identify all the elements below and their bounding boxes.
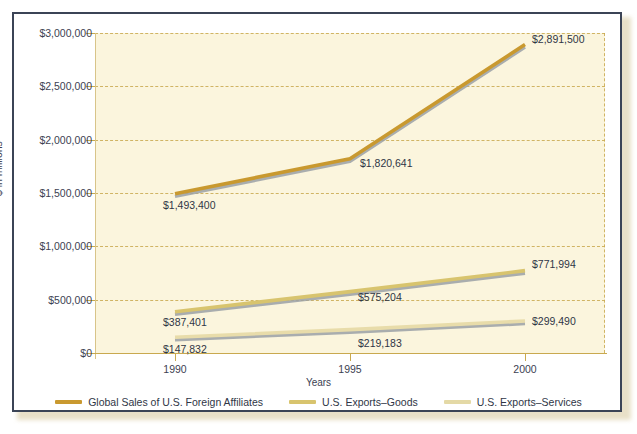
gridline-500000 [95, 300, 605, 301]
gridline-1000000 [95, 246, 605, 247]
legend-label-exports-services: U.S. Exports–Services [477, 396, 582, 408]
legend-item-global-sales[interactable]: Global Sales of U.S. Foreign Affiliates [55, 396, 263, 408]
x-tick-1995 [350, 353, 351, 361]
legend-label-global-sales: Global Sales of U.S. Foreign Affiliates [88, 396, 263, 408]
y-tick-label-1000000: $1,000,000 [12, 240, 92, 252]
x-axis-title: Years [0, 377, 637, 388]
data-label-goods-2000: $771,994 [532, 258, 576, 270]
gridline-2000000 [95, 140, 605, 141]
legend-swatch-icon-exports-services [444, 400, 471, 404]
y-tick-label-2500000: $2,500,000 [12, 80, 92, 92]
data-label-services-1995: $219,183 [358, 337, 402, 349]
y-tick-label-3000000: $3,000,000 [12, 27, 92, 39]
data-label-services-2000: $299,490 [532, 315, 576, 327]
data-label-global-1995: $1,820,641 [360, 157, 413, 169]
data-label-global-2000: $2,891,500 [532, 33, 585, 45]
y-axis-line [95, 33, 96, 359]
data-label-goods-1990: $387,401 [163, 316, 207, 328]
y-tick-label-0: $0 [12, 347, 92, 359]
x-tick-label-1995: 1995 [315, 363, 385, 375]
y-tick-label-1500000: $1,500,000 [12, 187, 92, 199]
legend-item-exports-services[interactable]: U.S. Exports–Services [444, 396, 582, 408]
x-tick-label-2000: 2000 [490, 363, 560, 375]
data-label-goods-1995: $575,204 [358, 291, 402, 303]
legend-swatch-icon-exports-goods [289, 400, 316, 404]
x-tick-2000 [525, 353, 526, 361]
gridline-2500000 [95, 86, 605, 87]
x-tick-label-1990: 1990 [140, 363, 210, 375]
y-axis-title: $ in millions [0, 141, 4, 196]
data-label-services-1990: $147,832 [163, 343, 207, 355]
gridline-1500000 [95, 193, 605, 194]
gridline-3000000 [95, 33, 605, 34]
legend-label-exports-goods: U.S. Exports–Goods [322, 396, 418, 408]
y-tick-label-500000: $500,000 [12, 294, 92, 306]
gridline-vertical-right [604, 33, 605, 353]
chart-legend: Global Sales of U.S. Foreign Affiliates … [0, 396, 637, 408]
legend-swatch-icon-global-sales [55, 400, 82, 404]
legend-item-exports-goods[interactable]: U.S. Exports–Goods [289, 396, 418, 408]
data-label-global-1990: $1,493,400 [163, 199, 216, 211]
y-tick-label-2000000: $2,000,000 [12, 134, 92, 146]
line-chart-figure: $3,000,000 $2,500,000 $2,000,000 $1,500,… [0, 0, 637, 434]
plot-area [95, 33, 605, 353]
